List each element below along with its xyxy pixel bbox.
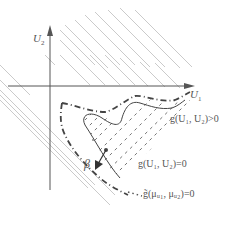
approx-limit-state-curve	[61, 103, 128, 195]
y-axis-arrow-icon	[47, 25, 53, 36]
x-axis-label: U1	[190, 88, 201, 103]
approx-limit-state-label: g̃(μᵤ₁, μᵤ₂)=0	[143, 188, 195, 199]
mean-point	[92, 139, 94, 141]
y-axis-label: U2	[33, 32, 44, 47]
beta-label: β	[84, 157, 90, 172]
leader-dots	[128, 192, 142, 196]
limit-state-label: g(U₁, U₂)=0	[138, 158, 187, 169]
safe-region-label: g(U₁, U₂)>0	[170, 113, 219, 124]
